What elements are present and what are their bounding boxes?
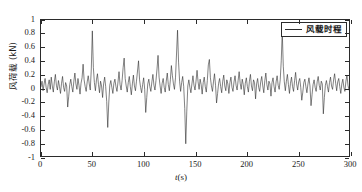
x-axis-tick: [92, 20, 93, 24]
y-axis-tick: [345, 47, 349, 48]
y-axis-tick: [41, 47, 45, 48]
x-axis-tick-label: 150: [175, 160, 215, 169]
y-axis-tick: [41, 144, 45, 145]
x-axis-tick-label: 250: [278, 160, 318, 169]
y-axis-label: 风荷载 (kN): [6, 6, 18, 126]
y-axis-tick-label: 1: [0, 15, 35, 24]
x-axis-tick-label: 300: [330, 160, 362, 169]
y-axis-tick: [41, 20, 45, 21]
legend: 风载时程: [281, 22, 347, 37]
x-axis-tick: [299, 20, 300, 24]
x-axis-tick: [92, 152, 93, 156]
x-axis-tick-label: 200: [227, 160, 267, 169]
x-axis-tick: [247, 20, 248, 24]
y-axis-tick-label: -0.6: [0, 125, 35, 134]
y-axis-tick-label: 0.6: [0, 42, 35, 51]
x-axis-tick-label: 0: [20, 160, 60, 169]
y-axis-tick: [41, 102, 45, 103]
x-axis-tick-label: 100: [123, 160, 163, 169]
y-axis-tick: [345, 75, 349, 76]
y-axis-tick: [345, 102, 349, 103]
x-axis-tick: [351, 152, 352, 156]
x-axis-tick: [144, 152, 145, 156]
plot-area: 风载时程: [40, 19, 350, 157]
y-axis-tick: [345, 130, 349, 131]
wind-load-curve: [41, 20, 349, 156]
x-axis-label: t(s): [0, 172, 362, 182]
y-axis-tick-label: -0.8: [0, 139, 35, 148]
x-axis-tick-label: 50: [72, 160, 112, 169]
y-axis-tick: [345, 116, 349, 117]
y-axis-tick: [345, 20, 349, 21]
y-axis-tick: [345, 144, 349, 145]
y-axis-tick-label: -0.2: [0, 97, 35, 106]
x-axis-tick: [299, 152, 300, 156]
y-axis-tick-label: 0.8: [0, 28, 35, 37]
y-axis-tick-label: 0.2: [0, 70, 35, 79]
y-axis-tick: [345, 33, 349, 34]
y-axis-tick: [41, 130, 45, 131]
y-axis-tick: [41, 33, 45, 34]
x-axis-tick: [41, 20, 42, 24]
legend-label: 风载时程: [306, 24, 342, 34]
x-axis-tick: [196, 152, 197, 156]
y-axis-tick: [41, 61, 45, 62]
legend-line-swatch: [285, 29, 302, 30]
y-axis-tick-label: -0.4: [0, 111, 35, 120]
y-axis-tick: [345, 61, 349, 62]
x-axis-tick: [41, 152, 42, 156]
wind-load-time-history-figure: 风荷载 (kN) 风载时程 t(s) -1-0.8-0.6-0.4-0.200.…: [0, 0, 362, 192]
x-axis-tick: [144, 20, 145, 24]
y-axis-tick-label: 0.4: [0, 56, 35, 65]
x-axis-tick: [351, 20, 352, 24]
y-axis-tick: [345, 89, 349, 90]
y-axis-tick: [41, 89, 45, 90]
x-axis-label-unit: (s): [178, 172, 188, 182]
y-axis-tick: [41, 75, 45, 76]
y-axis-tick-label: 0: [0, 84, 35, 93]
y-axis-tick: [41, 116, 45, 117]
x-axis-tick: [196, 20, 197, 24]
x-axis-tick: [247, 152, 248, 156]
